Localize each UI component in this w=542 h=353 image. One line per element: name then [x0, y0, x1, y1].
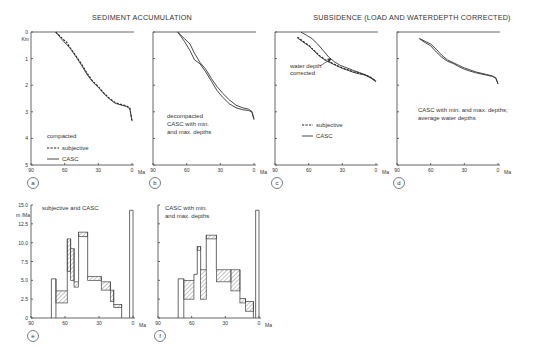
- x-tick-label: 30: [340, 167, 346, 173]
- bar-range: [216, 270, 231, 282]
- y-unit-label: m /Ma: [16, 212, 30, 218]
- x-unit-label: Ma: [139, 322, 146, 328]
- y-unit-label: Km: [22, 36, 30, 42]
- x-tick-label: 90: [394, 167, 400, 173]
- x-unit-label: Ma: [504, 169, 511, 175]
- x-tick-label: 30: [96, 320, 102, 326]
- bar-range: [197, 246, 200, 250]
- bar-range: [184, 280, 194, 299]
- panel-e: 9060300Ma02.55.07.510.012.515.0m /Mae: [16, 202, 146, 342]
- x-tick-label: 90: [155, 320, 161, 326]
- x-tick-label: 30: [223, 320, 229, 326]
- x-unit-label: Ma: [382, 169, 389, 175]
- legend-casc-a: CASC: [62, 156, 79, 162]
- bar-range: [206, 235, 216, 239]
- panel-b-text-2: CASC with min.: [167, 121, 209, 127]
- x-tick-label: 90: [272, 167, 278, 173]
- x-tick-label: 30: [96, 167, 102, 173]
- panel-d-text-2: average water depths: [418, 115, 476, 121]
- panel-f-text-1: CASC with min.: [165, 205, 207, 211]
- y-tick-label: 5.0: [21, 277, 28, 283]
- x-tick-label: 90: [150, 167, 156, 173]
- bar: [51, 279, 56, 318]
- bar-range: [71, 249, 74, 281]
- bar-range: [101, 282, 110, 290]
- annotation-water-depth: water depth: [289, 63, 321, 69]
- y-tick-label: 0: [25, 29, 28, 35]
- panel-f: 9060300Maf: [155, 205, 273, 342]
- y-tick-label: 2: [25, 82, 28, 88]
- panel-f-text-2: and max. depths: [165, 213, 209, 219]
- bar-range: [88, 277, 102, 281]
- y-tick-label: 2.5: [21, 296, 28, 302]
- bar-range: [246, 301, 254, 311]
- panel-b-text-3: and max. depths: [167, 129, 211, 135]
- bar: [256, 210, 259, 318]
- x-tick-label: 60: [306, 167, 312, 173]
- y-tick-label: 15.0: [18, 202, 28, 208]
- panels: 9060300Ma012345Kma9060300Mab9060300Mac90…: [16, 29, 511, 342]
- annotation-corrected: corrected: [290, 70, 315, 76]
- x-tick-label: 0: [375, 167, 378, 173]
- y-tick-label: 0: [25, 315, 28, 321]
- panel-e-text: subjective and CASC: [42, 205, 99, 211]
- x-tick-label: 0: [497, 167, 500, 173]
- x-unit-label: Ma: [265, 322, 272, 328]
- bar-range: [110, 290, 113, 301]
- bar-range: [114, 304, 122, 307]
- legend-casc-c: CASC: [316, 133, 333, 139]
- legend-subjective-a: subjective: [62, 145, 89, 151]
- panel-d-text-1: CASC with min. and max. depths;: [418, 107, 508, 113]
- bar: [130, 210, 133, 318]
- bar-range: [74, 282, 79, 287]
- x-tick-label: 0: [131, 167, 134, 173]
- bar-range: [67, 239, 70, 271]
- panel-b-text-1: decompacted: [167, 113, 203, 119]
- x-tick-label: 60: [428, 167, 434, 173]
- x-tick-label: 60: [189, 320, 195, 326]
- series-line: [56, 32, 132, 121]
- y-tick-label: 1: [25, 56, 28, 62]
- bar-range: [201, 270, 207, 299]
- series-line: [178, 32, 254, 120]
- panel-label: e: [31, 333, 35, 339]
- panel-a: 9060300Ma012345Kma: [22, 29, 146, 189]
- y-tick-label: 12.5: [18, 221, 28, 227]
- bar-range: [79, 232, 88, 237]
- bar-range: [240, 298, 246, 303]
- x-tick-label: 60: [62, 320, 68, 326]
- panel-label: d: [397, 180, 400, 186]
- series-line: [419, 39, 498, 84]
- title-sediment-accumulation: SEDIMENT ACCUMULATION: [92, 13, 192, 22]
- x-tick-label: 60: [62, 167, 68, 173]
- panel-c: 9060300Mac: [272, 32, 390, 189]
- x-tick-label: 90: [28, 320, 34, 326]
- panel-label: b: [153, 180, 157, 186]
- panel-label: a: [31, 180, 35, 186]
- bar-range: [56, 291, 67, 303]
- figure-canvas: SEDIMENT ACCUMULATION SUBSIDENCE (LOAD A…: [0, 0, 542, 353]
- x-tick-label: 0: [253, 167, 256, 173]
- panel-label: f: [159, 333, 161, 339]
- x-tick-label: 30: [218, 167, 224, 173]
- series-line: [178, 32, 254, 119]
- x-tick-label: 0: [258, 320, 261, 326]
- panel-b: 9060300Mab: [150, 32, 268, 189]
- x-tick-label: 30: [462, 167, 468, 173]
- bar-range: [231, 270, 240, 291]
- series-line: [419, 39, 498, 84]
- x-tick-label: 60: [184, 167, 190, 173]
- x-tick-label: 0: [132, 320, 135, 326]
- y-tick-label: 5: [25, 162, 28, 168]
- legend-subjective-c: subjective: [316, 122, 343, 128]
- panel-a-text: compacted: [47, 133, 76, 139]
- x-unit-label: Ma: [138, 169, 145, 175]
- bar: [178, 279, 184, 318]
- title-subsidence: SUBSIDENCE (LOAD AND WATERDEPTH CORRECTE…: [313, 13, 510, 22]
- y-tick-label: 4: [25, 135, 28, 141]
- y-tick-label: 3: [25, 109, 28, 115]
- y-tick-label: 7.5: [21, 259, 28, 265]
- panel-label: c: [276, 180, 279, 186]
- x-unit-label: Ma: [260, 169, 267, 175]
- y-tick-label: 10.0: [18, 240, 28, 246]
